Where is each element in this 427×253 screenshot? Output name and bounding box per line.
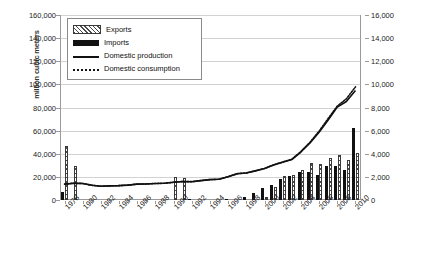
y-tick-mark-right [365,15,369,16]
x-tick-mark [328,201,329,204]
legend-label-imports: Imports [104,38,129,47]
y-tick-label-right: 12,000 [371,57,394,66]
exports-swatch-icon [73,25,101,34]
imports-swatch-icon [73,40,99,46]
x-tick-mark [183,201,184,204]
y-tick-mark-right [365,61,369,62]
y-tick-label-right: 14,000 [371,34,394,43]
legend-item-consumption: Domestic consumption [73,62,196,75]
y-tick-mark-right [365,131,369,132]
bar-exports [301,170,304,200]
y-tick-label-right: 16,000 [371,11,394,20]
x-tick-mark [146,201,147,204]
y-axis-right-ticks: 02,0004,0006,0008,00010,00012,00014,0001… [365,15,415,200]
bar-exports [283,176,286,200]
bar-exports [174,177,177,200]
y-tick-label-right: 6,000 [371,126,390,135]
y-tick-label-left: 140,000 [29,34,56,43]
y-tick-label-left: 160,000 [29,11,56,20]
chart-legend: Exports Imports Domestic production Dome… [67,18,202,80]
legend-item-exports: Exports [73,23,196,36]
y-tick-label-left: 20,000 [33,172,56,181]
bar-imports [279,179,282,200]
x-tick-mark [310,201,311,204]
legend-label-exports: Exports [106,25,131,34]
x-tick-mark [128,201,129,204]
bar-exports [65,146,68,200]
legend-label-consumption: Domestic consumption [104,64,180,73]
y-tick-label-left: 40,000 [33,149,56,158]
y-tick-label-right: 0 [371,196,375,205]
x-tick-mark [219,201,220,204]
bar-imports [316,175,319,200]
production-line-icon [73,56,99,58]
bar-exports [356,153,359,200]
y-tick-mark-right [365,154,369,155]
y-tick-mark-right [365,84,369,85]
y-tick-label-left: 100,000 [29,80,56,89]
legend-item-production: Domestic production [73,49,196,62]
y-tick-label-left: 120,000 [29,57,56,66]
bar-imports [334,166,337,200]
x-tick-mark [346,201,347,204]
bar-exports [319,164,322,200]
x-tick-mark [201,201,202,204]
x-axis-labels: 1978198019821984198619881990199219941996… [60,201,360,251]
x-tick-mark [274,201,275,204]
y-axis-left-ticks: 020,00040,00060,00080,000100,000120,0001… [14,15,56,200]
x-tick-mark [255,201,256,204]
x-tick-mark [237,201,238,204]
y-tick-mark-right [365,38,369,39]
x-tick-mark [165,201,166,204]
x-tick-mark [110,201,111,204]
y-tick-label-left: 80,000 [33,103,56,112]
chart-container: million cubic meters 020,00040,00060,000… [0,0,427,253]
y-tick-label-right: 4,000 [371,149,390,158]
bar-imports [298,172,301,200]
consumption-line-icon [73,69,99,71]
bar-imports [352,128,355,200]
bar-imports [61,192,64,200]
bar-exports [338,155,341,200]
x-tick-mark [74,201,75,204]
y-tick-label-right: 10,000 [371,80,394,89]
y-tick-mark-right [365,108,369,109]
legend-label-production: Domestic production [104,51,172,60]
y-tick-label-left: 60,000 [33,126,56,135]
y-tick-label-right: 2,000 [371,172,390,181]
y-tick-label-right: 8,000 [371,103,390,112]
x-tick-mark [292,201,293,204]
y-tick-mark-right [365,177,369,178]
y-axis-right-line [360,15,361,200]
x-tick-mark [92,201,93,204]
legend-item-imports: Imports [73,36,196,49]
